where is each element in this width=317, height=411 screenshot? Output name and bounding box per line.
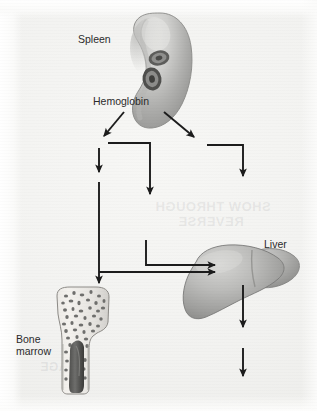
arrow-hb-to-left bbox=[104, 112, 124, 136]
label-liver: Liver bbox=[264, 238, 287, 250]
arrow-elbow-right bbox=[207, 145, 243, 176]
label-bone-marrow: Bone marrow bbox=[16, 333, 51, 357]
bone-marrow-organ bbox=[57, 287, 109, 394]
arrow-network bbox=[99, 112, 243, 376]
liver-organ bbox=[183, 245, 299, 319]
label-hemoglobin: Hemoglobin bbox=[93, 95, 149, 107]
marrow-cavity bbox=[69, 341, 84, 393]
spleen-organ bbox=[130, 13, 192, 128]
arrow-hb-to-right bbox=[164, 112, 194, 137]
arrow-elbow-mid bbox=[108, 143, 150, 194]
label-spleen: Spleen bbox=[78, 33, 111, 45]
figure-container: SHOW THROUGH REVERSE PAGE bbox=[0, 0, 317, 411]
